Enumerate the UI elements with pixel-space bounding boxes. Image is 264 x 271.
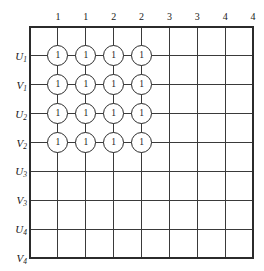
column-header-8: 4 — [245, 11, 261, 23]
column-header-1: 1 — [50, 11, 66, 23]
figure-container: 11223344 U1V1U2V2U3V3U4V4 11111111111111… — [0, 0, 264, 271]
row-label-subscript: 2 — [23, 113, 27, 122]
column-header-3: 2 — [106, 11, 122, 23]
row-label-v4: V4 — [3, 252, 27, 266]
row-label-subscript: 1 — [23, 55, 27, 64]
node-circle[interactable]: 1 — [131, 103, 152, 124]
row-label-subscript: 4 — [23, 257, 27, 266]
row-label-v2: V2 — [3, 137, 27, 151]
row-label-subscript: 4 — [23, 228, 27, 237]
column-header-6: 3 — [189, 11, 205, 23]
row-label-subscript: 3 — [23, 170, 27, 179]
row-label-v3: V3 — [3, 194, 27, 208]
row-label-u4: U4 — [3, 223, 27, 237]
column-header-2: 1 — [78, 11, 94, 23]
column-header-5: 3 — [161, 11, 177, 23]
column-header-7: 4 — [217, 11, 233, 23]
row-label-v1: V1 — [3, 79, 27, 93]
row-label-u3: U3 — [3, 165, 27, 179]
node-circle[interactable]: 1 — [103, 132, 124, 153]
row-label-subscript: 3 — [23, 199, 27, 208]
column-header-4: 2 — [134, 11, 150, 23]
row-label-u1: U1 — [3, 50, 27, 64]
row-label-u2: U2 — [3, 108, 27, 122]
node-circle[interactable]: 1 — [131, 132, 152, 153]
row-label-subscript: 2 — [23, 142, 27, 151]
row-label-subscript: 1 — [23, 84, 27, 93]
